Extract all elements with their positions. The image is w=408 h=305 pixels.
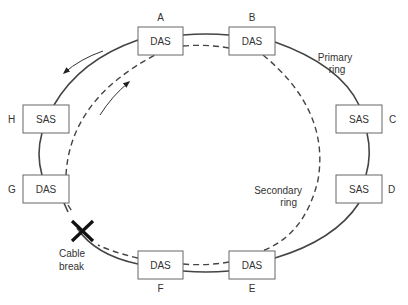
- node-D-label: D: [388, 184, 395, 195]
- secondary-direction-arrow: [100, 82, 129, 115]
- node-F-label: F: [157, 283, 163, 294]
- secondary-ring: [66, 45, 320, 264]
- node-D: SAS D: [336, 175, 395, 203]
- node-D-type: SAS: [349, 184, 369, 195]
- node-H-type: SAS: [36, 114, 56, 125]
- node-A-label: A: [157, 12, 164, 23]
- node-E-type: DAS: [242, 260, 263, 271]
- secondary-ring-label: Secondary ring: [254, 185, 302, 208]
- node-H-label: H: [8, 114, 15, 125]
- fddi-ring-diagram: DAS A DAS B SAS C SAS D DAS E DAS F DAS …: [0, 0, 408, 305]
- secondary-ring-label-line1: Secondary: [254, 185, 302, 196]
- node-C-label: C: [389, 114, 396, 125]
- node-B-label: B: [249, 12, 256, 23]
- cable-break-label-line2: break: [59, 261, 85, 272]
- primary-ring-label: Primary ring: [318, 52, 352, 75]
- node-C-type: SAS: [349, 114, 369, 125]
- cable-break-mark: [72, 221, 93, 241]
- node-B-type: DAS: [242, 36, 263, 47]
- node-F: DAS F: [138, 251, 183, 294]
- node-A-type: DAS: [150, 36, 171, 47]
- node-G-label: G: [8, 184, 16, 195]
- node-F-type: DAS: [150, 260, 171, 271]
- node-A: DAS A: [138, 12, 183, 55]
- node-B: DAS B: [229, 12, 275, 55]
- node-G-type: DAS: [36, 184, 57, 195]
- primary-ring-label-line2: ring: [329, 64, 346, 75]
- secondary-ring-label-line2: ring: [280, 197, 297, 208]
- node-G: DAS G: [8, 175, 69, 203]
- cable-break-label-line1: Cable: [59, 248, 86, 259]
- primary-ring-label-line1: Primary: [318, 52, 352, 63]
- node-E: DAS E: [229, 251, 275, 294]
- node-H: SAS H: [8, 105, 69, 133]
- node-C: SAS C: [336, 105, 396, 133]
- cable-break-label: Cable break: [59, 248, 86, 272]
- node-E-label: E: [249, 283, 256, 294]
